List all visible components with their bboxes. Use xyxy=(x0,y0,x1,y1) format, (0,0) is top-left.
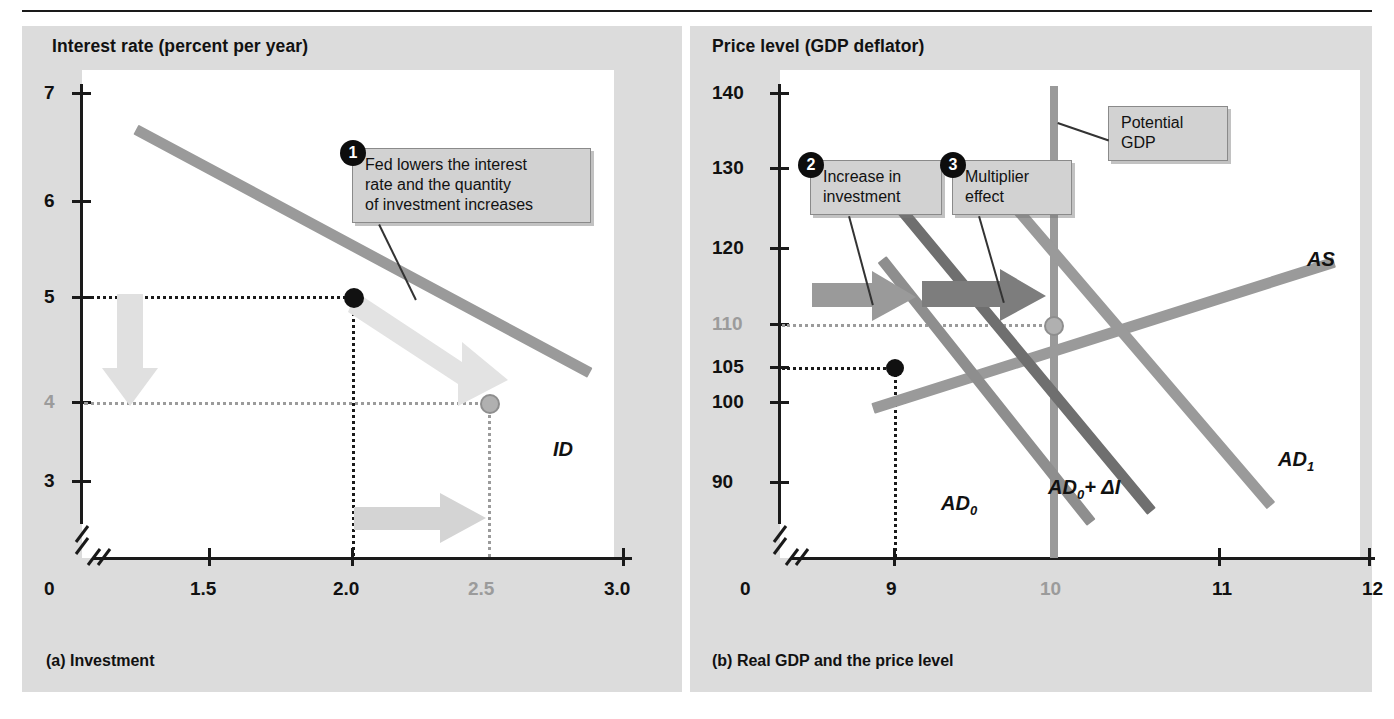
panel-a-movement-arrow xyxy=(342,284,562,434)
panel-a-curve-label-id: ID xyxy=(553,438,573,461)
potential-gdp-label-box: Potential GDP xyxy=(1108,106,1228,161)
panel-a-xtick-label-1-5: 1.5 xyxy=(190,578,216,600)
panel-b-ytick-130 xyxy=(770,167,789,170)
panel-b-point-new xyxy=(1044,316,1064,336)
panel-a-ytick-label-4: 4 xyxy=(44,391,55,413)
adshift-base: AD xyxy=(1048,476,1077,498)
panel-b-curve-label-ad1: AD1 xyxy=(1278,448,1314,474)
panel-b-y-axis xyxy=(778,84,781,524)
panel-b-caption: (b) Real GDP and the price level xyxy=(712,652,954,670)
panel-b-xtick-label-12: 12 xyxy=(1362,578,1383,600)
panel-b-ytick-label-110: 110 xyxy=(712,313,743,335)
panel-b-ytick-label-130: 130 xyxy=(712,157,744,179)
panel-a-caption: (a) Investment xyxy=(46,652,154,670)
figure-container: Interest rate (percent per year) 7 6 5 4… xyxy=(0,0,1394,719)
panel-a-investment: Interest rate (percent per year) 7 6 5 4… xyxy=(22,26,682,692)
panel-b-curve-label-as: AS xyxy=(1307,248,1335,271)
panel-a-point-new xyxy=(480,394,500,414)
panel-a-point-initial xyxy=(344,288,364,308)
panel-a-y-axis xyxy=(80,84,83,524)
panel-b-ytick-label-105: 105 xyxy=(712,356,744,378)
panel-a-ytick-3 xyxy=(72,480,91,483)
panel-a-xtick-label-3-0: 3.0 xyxy=(604,578,630,600)
panel-b-point-initial xyxy=(886,359,904,377)
panel-b-curve-label-ad-shift: AD0+ ΔI xyxy=(1048,476,1120,502)
panel-a-ytick-label-0: 0 xyxy=(44,578,55,600)
panel-b-xtick-12 xyxy=(1368,548,1371,566)
panel-a-investment-rise-arrow xyxy=(354,493,494,549)
ad1-base: AD xyxy=(1278,448,1307,470)
ad1-sub: 1 xyxy=(1307,459,1314,474)
panel-a-x-axis xyxy=(92,557,632,560)
panel-a-xtick-3-0 xyxy=(622,548,625,566)
panel-b-xtick-label-11: 11 xyxy=(1212,578,1232,600)
panel-b-guide-price-105 xyxy=(782,367,898,370)
ad0-sub: 0 xyxy=(970,503,977,518)
panel-a-ytick-6 xyxy=(72,200,91,203)
callout-1-badge: 1 xyxy=(340,140,366,166)
panel-a-ytick-label-7: 7 xyxy=(44,82,55,104)
panel-b-multiplier-effect-arrow xyxy=(922,269,1052,327)
panel-a-ytick-7 xyxy=(72,92,91,95)
panel-a-axis-break xyxy=(66,518,116,568)
panel-a-xtick-label-2-5: 2.5 xyxy=(468,578,494,600)
panel-b-xtick-11 xyxy=(1218,548,1221,566)
panel-b-curve-label-ad0: AD0 xyxy=(941,492,977,518)
panel-a-ytick-label-5: 5 xyxy=(44,286,55,308)
callout-2-badge: 2 xyxy=(798,152,824,178)
callout-3-badge: 3 xyxy=(940,152,966,178)
ad0-base: AD xyxy=(941,492,970,514)
panel-a-xtick-label-2-0: 2.0 xyxy=(333,578,359,600)
panel-a-xtick-1-5 xyxy=(208,548,211,566)
panel-a-rate-fall-arrow xyxy=(102,294,174,414)
panel-b-ytick-90 xyxy=(770,481,789,484)
panel-b-xtick-label-0: 0 xyxy=(740,578,751,600)
panel-b-xtick-label-10: 10 xyxy=(1040,578,1061,600)
panel-b-ytick-100 xyxy=(770,401,789,404)
callout-2-box: Increase in investment xyxy=(810,160,942,215)
panel-b-ytick-140 xyxy=(770,92,789,95)
panel-b-y-axis-title: Price level (GDP deflator) xyxy=(712,36,924,57)
panel-b-ytick-label-90: 90 xyxy=(712,471,733,493)
panel-b-axis-break xyxy=(764,518,814,568)
top-rule xyxy=(22,10,1372,12)
panel-a-ytick-label-3: 3 xyxy=(44,470,55,492)
panel-b-ytick-120 xyxy=(770,247,789,250)
panel-b-ytick-label-100: 100 xyxy=(712,391,744,413)
panel-b-real-gdp: Price level (GDP deflator) 140 130 120 1… xyxy=(690,26,1372,692)
panel-b-x-axis xyxy=(790,557,1375,560)
adshift-tail: + ΔI xyxy=(1084,476,1120,498)
panel-a-y-axis-title: Interest rate (percent per year) xyxy=(52,36,308,57)
callout-3-box: Multiplier effect xyxy=(952,160,1072,215)
panel-b-ytick-label-140: 140 xyxy=(712,82,744,104)
callout-1-box: Fed lowers the interest rate and the qua… xyxy=(352,148,591,223)
panel-a-ytick-label-6: 6 xyxy=(44,190,55,212)
panel-b-xtick-label-9: 9 xyxy=(886,578,897,600)
panel-b-ytick-label-120: 120 xyxy=(712,237,744,259)
